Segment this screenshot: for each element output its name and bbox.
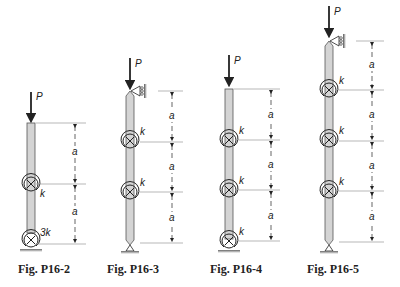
figure-p16-5: P k k k [320,6,384,254]
caption-p16-3: Fig. P16-3 [107,262,159,277]
svg-text:a: a [369,109,375,120]
ground-icon [320,251,338,254]
svg-text:P: P [135,58,142,69]
svg-text:k: k [40,188,46,199]
svg-text:k: k [339,75,345,86]
svg-text:k: k [239,226,245,237]
caption-p16-4: Fig. P16-4 [210,262,262,277]
ground-icon [121,251,139,254]
svg-text:a: a [72,146,78,157]
column [126,91,134,245]
svg-text:P: P [234,55,241,66]
svg-text:a: a [169,161,175,172]
load-label: P [36,91,43,102]
svg-text:a: a [268,159,274,170]
figure-p16-2: P k 3k a a [20,91,86,252]
svg-text:a: a [369,211,375,222]
svg-text:k: k [339,176,345,187]
svg-text:a: a [72,206,78,217]
ground-icon [218,250,240,253]
svg-text:a: a [268,210,274,221]
svg-text:3k: 3k [40,227,52,238]
column [225,89,233,239]
svg-text:a: a [369,59,375,70]
figure-p16-3: P k k a a a [121,58,183,254]
svg-text:k: k [140,177,146,188]
caption-p16-5: Fig. P16-5 [307,262,359,277]
svg-text:k: k [339,125,345,136]
svg-text:P: P [334,6,341,17]
pin-support-icon [126,245,134,251]
ground-icon [20,249,42,252]
svg-text:a: a [169,110,175,121]
svg-text:k: k [140,126,146,137]
svg-text:k: k [239,175,245,186]
svg-text:a: a [268,109,274,120]
svg-text:a: a [169,212,175,223]
pin-support-icon [325,245,333,251]
svg-text:k: k [239,125,245,136]
figure-p16-4: P k k k a a a [218,55,280,253]
svg-text:a: a [369,160,375,171]
caption-p16-2: Fig. P16-2 [18,262,70,277]
figures-canvas: P k 3k a a P [0,0,400,287]
